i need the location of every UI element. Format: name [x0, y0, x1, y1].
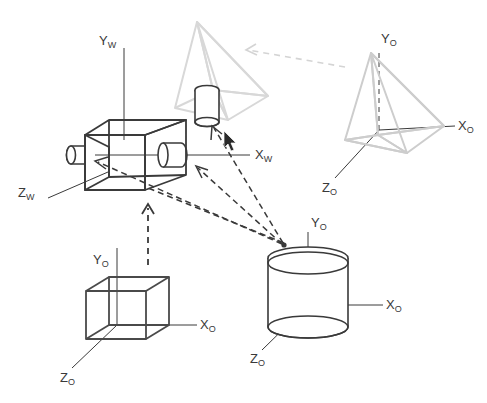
canvas-background: [0, 0, 487, 403]
camera-lens-rear: [158, 143, 187, 167]
camera-lens-front: [67, 146, 86, 164]
cylinder-shape: [268, 247, 348, 338]
camera-lens-front-cap: [67, 146, 76, 164]
projected-cylinder: [195, 86, 219, 127]
projected-cylinder-body: [195, 90, 219, 127]
coordinate-frames-diagram: YO XO ZO: [0, 0, 487, 403]
cylinder-body: [268, 258, 348, 338]
camera-lens-rear-cap: [158, 143, 168, 167]
